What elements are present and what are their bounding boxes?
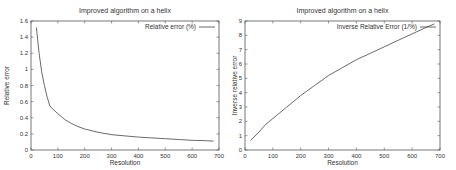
x-tick-label: 200 bbox=[80, 153, 91, 159]
y-tick-label: 0 bbox=[25, 147, 29, 153]
data-line bbox=[36, 28, 213, 142]
y-tick-label: 1.6 bbox=[20, 18, 29, 24]
x-tick-label: 100 bbox=[53, 153, 64, 159]
legend-label: Relative error (%) bbox=[145, 23, 196, 31]
legend-label: Inverse Relative Error (1/%) bbox=[337, 23, 417, 31]
y-tick-label: 4 bbox=[239, 90, 243, 96]
y-tick-label: 9 bbox=[239, 18, 243, 24]
y-tick-label: 3 bbox=[239, 104, 243, 110]
y-tick-label: 5 bbox=[239, 75, 243, 81]
y-axis-label: Relative error bbox=[3, 65, 10, 105]
x-axis-label: Resolution bbox=[327, 159, 358, 166]
y-tick-label: 0.4 bbox=[20, 115, 29, 121]
x-tick-label: 500 bbox=[379, 153, 390, 159]
y-tick-label: 1 bbox=[239, 133, 243, 139]
y-tick-label: 0.8 bbox=[20, 83, 29, 89]
x-tick-label: 0 bbox=[243, 153, 247, 159]
relative-error-plot: Improved algorithm on a helix01002003004… bbox=[0, 0, 228, 170]
data-line bbox=[251, 24, 435, 141]
y-tick-label: 0.2 bbox=[20, 131, 29, 137]
x-tick-label: 700 bbox=[214, 153, 225, 159]
y-tick-label: 1 bbox=[25, 66, 29, 72]
y-axis-label: Inverse relative error bbox=[231, 55, 238, 115]
x-tick-label: 600 bbox=[187, 153, 198, 159]
y-tick-label: 2 bbox=[239, 118, 243, 124]
y-tick-label: 8 bbox=[239, 32, 243, 38]
y-tick-label: 1.2 bbox=[20, 50, 29, 56]
chart-title: Improved algorithm on a helix bbox=[297, 7, 389, 15]
plot-frame bbox=[245, 21, 440, 150]
x-tick-label: 500 bbox=[160, 153, 171, 159]
x-tick-label: 700 bbox=[435, 153, 446, 159]
x-tick-label: 0 bbox=[29, 153, 33, 159]
relative-error-chart: Improved algorithm on a helix01002003004… bbox=[0, 0, 228, 170]
x-tick-label: 100 bbox=[268, 153, 279, 159]
plot-frame bbox=[31, 21, 219, 150]
inverse-relative-error-chart: Improved algorithm on a helix01002003004… bbox=[228, 0, 456, 170]
x-axis-label: Resolution bbox=[110, 159, 141, 166]
x-tick-label: 600 bbox=[407, 153, 418, 159]
y-tick-label: 7 bbox=[239, 47, 243, 53]
inverse-relative-error-plot: Improved algorithm on a helix01002003004… bbox=[228, 0, 456, 170]
chart-title: Improved algorithm on a helix bbox=[79, 7, 171, 15]
y-tick-label: 6 bbox=[239, 61, 243, 67]
y-tick-label: 0.6 bbox=[20, 99, 29, 105]
y-tick-label: 1.4 bbox=[20, 34, 29, 40]
y-tick-label: 0 bbox=[239, 147, 243, 153]
x-tick-label: 200 bbox=[296, 153, 307, 159]
